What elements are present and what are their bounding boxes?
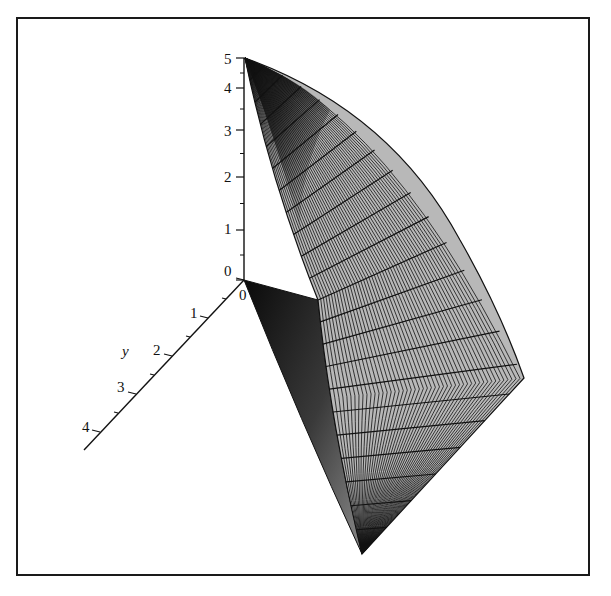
z-tick-label-0: 0 [224,263,232,279]
y-tick-label-2: 2 [153,342,161,358]
z-tick-label-1: 1 [224,221,232,237]
z-tick-label-2: 2 [224,169,232,185]
z-tick-label-4: 4 [224,80,232,96]
y-axis-title: y [120,343,129,359]
y-tick-label-1: 1 [190,305,198,321]
y-axis: y [84,278,244,450]
surface-plot-canvas[interactable]: y 5 4 3 2 1 0 0 1 2 3 4 [0,0,611,596]
y-tick-label-4: 4 [82,419,90,435]
z-axis [236,58,244,280]
z-tick-label-3: 3 [224,123,232,139]
y-tick-label-3: 3 [117,379,125,395]
z-tick-label-5: 5 [224,51,232,67]
y-tick-label-0: 0 [239,287,247,303]
